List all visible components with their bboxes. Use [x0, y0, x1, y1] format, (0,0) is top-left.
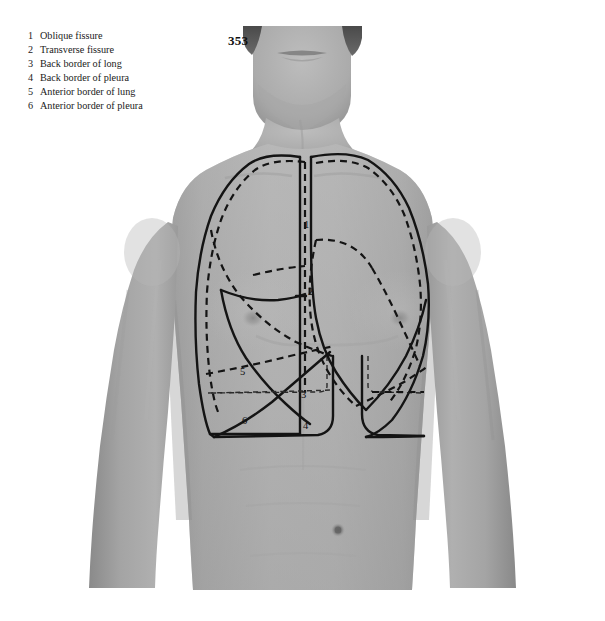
- page-canvas: 1 2 3 4 5 6 1 Oblique fissure 2 Transver…: [0, 0, 605, 621]
- legend-number: 2: [28, 43, 40, 57]
- legend-item: 2 Transverse fissure: [28, 43, 218, 57]
- lung-border-right-medial: [311, 157, 366, 410]
- legend-number: 6: [28, 99, 40, 113]
- pleura-border-left-outline: [206, 161, 305, 414]
- callout-4: 4: [303, 421, 308, 432]
- legend-number: 3: [28, 57, 40, 71]
- callout-2: 2: [308, 287, 313, 298]
- legend-label: Transverse fissure: [40, 43, 218, 57]
- legend-item: 3 Back border of long: [28, 57, 218, 71]
- anterior-border-pleura-left: [214, 352, 330, 437]
- legend-label: Back border of long: [40, 57, 218, 71]
- figure-legend: 1 Oblique fissure 2 Transverse fissure 3…: [28, 29, 218, 114]
- lung-border-right-outline: [311, 154, 429, 437]
- legend-number: 5: [28, 85, 40, 99]
- legend-label: Oblique fissure: [40, 29, 218, 43]
- cardiac-notch-right: [316, 240, 372, 268]
- legend-label: Anterior border of lung: [40, 85, 218, 99]
- oblique-fissure-right: [372, 268, 420, 366]
- transverse-fissure-left: [221, 290, 305, 300]
- anterior-border-lung-left: [221, 290, 310, 424]
- callout-1: 1: [304, 220, 309, 231]
- legend-item: 4 Back border of pleura: [28, 71, 218, 85]
- legend-item: 1 Oblique fissure: [28, 29, 218, 43]
- legend-number: 4: [28, 71, 40, 85]
- page-number: 353: [228, 33, 248, 49]
- callout-5: 5: [240, 367, 245, 378]
- back-border-lung-left: [206, 346, 334, 374]
- oblique-fissure-left-leader: [253, 266, 305, 275]
- pleura-bottom-right: [366, 436, 424, 437]
- legend-label: Anterior border of pleura: [40, 99, 218, 113]
- legend-label: Back border of pleura: [40, 71, 218, 85]
- legend-item: 5 Anterior border of lung: [28, 85, 218, 99]
- legend-item: 6 Anterior border of pleura: [28, 99, 218, 113]
- callout-6: 6: [242, 416, 247, 427]
- legend-number: 1: [28, 29, 40, 43]
- callout-3: 3: [301, 390, 306, 401]
